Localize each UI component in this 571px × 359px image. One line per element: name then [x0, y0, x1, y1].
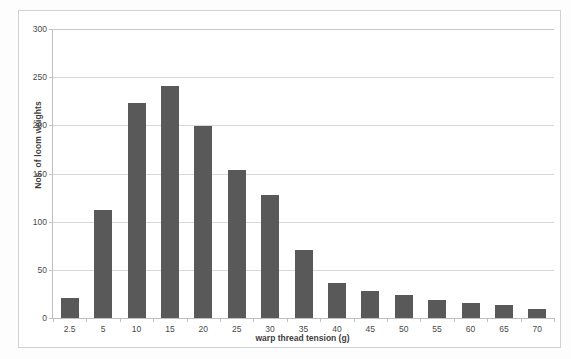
x-axis-tick-mark	[320, 318, 321, 322]
x-axis-tick-mark	[86, 318, 87, 322]
x-axis-tick-mark	[253, 318, 254, 322]
bar	[94, 210, 112, 318]
x-axis-tick-mark	[220, 318, 221, 322]
x-axis-tick-mark	[287, 318, 288, 322]
plot-area: 0501001502002503002.55101520253035404550…	[52, 29, 554, 319]
x-axis-tick-mark	[354, 318, 355, 322]
y-axis-tick-mark	[49, 270, 53, 271]
y-axis-tick-label: 150	[33, 169, 47, 179]
x-axis-tick-mark	[487, 318, 488, 322]
chart-figure: Nos. of loom weights 0501001502002503002…	[0, 0, 571, 359]
x-axis-tick-mark	[387, 318, 388, 322]
bar	[462, 303, 480, 318]
y-axis-tick-label: 300	[33, 24, 47, 34]
y-axis-tick-mark	[49, 174, 53, 175]
bar	[328, 283, 346, 318]
x-axis-tick-mark	[554, 318, 555, 322]
x-axis-tick-mark	[454, 318, 455, 322]
bar	[428, 300, 446, 318]
y-axis-tick-mark	[49, 29, 53, 30]
x-axis-title: warp thread tension (g)	[52, 333, 553, 343]
gridline	[53, 77, 554, 78]
y-axis-tick-label: 200	[33, 120, 47, 130]
bar	[161, 86, 179, 318]
bar	[295, 250, 313, 318]
bar	[61, 298, 79, 318]
bar	[128, 103, 146, 318]
bar	[194, 126, 212, 318]
bar	[528, 309, 546, 318]
y-axis-tick-label: 0	[42, 313, 47, 323]
x-axis-tick-mark	[53, 318, 54, 322]
y-axis-tick-mark	[49, 77, 53, 78]
y-axis-tick-mark	[49, 125, 53, 126]
y-axis-tick-label: 250	[33, 72, 47, 82]
bar	[261, 195, 279, 318]
x-axis-tick-mark	[120, 318, 121, 322]
bar	[228, 170, 246, 318]
y-axis-tick-label: 100	[33, 217, 47, 227]
gridline	[53, 29, 554, 30]
bar	[395, 295, 413, 318]
bar	[361, 291, 379, 318]
x-axis-tick-mark	[521, 318, 522, 322]
y-axis-tick-label: 50	[38, 265, 47, 275]
y-axis-tick-mark	[49, 222, 53, 223]
x-axis-tick-mark	[187, 318, 188, 322]
bar	[495, 305, 513, 318]
x-axis-tick-mark	[420, 318, 421, 322]
x-axis-tick-mark	[153, 318, 154, 322]
